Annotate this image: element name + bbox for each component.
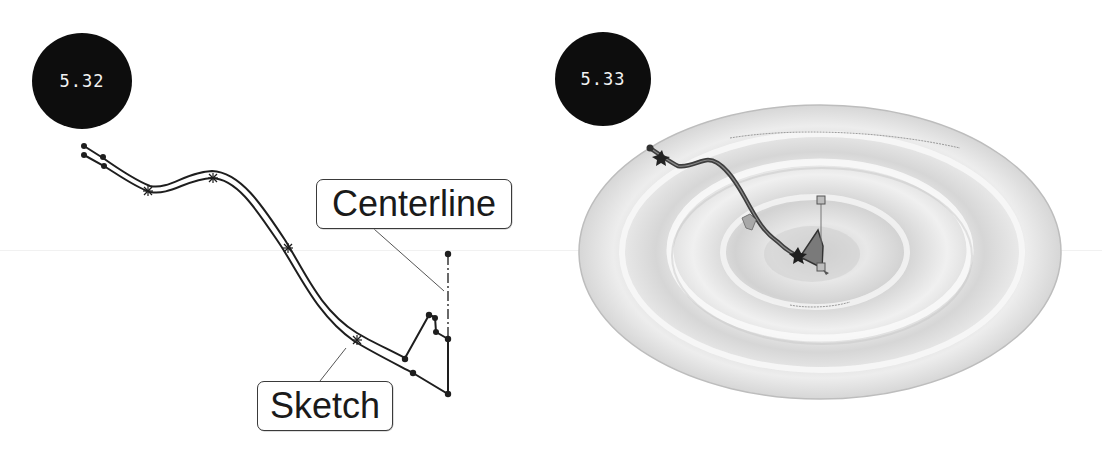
sketch-leader-line <box>320 348 346 381</box>
sketch-point[interactable] <box>402 356 408 362</box>
centerline-callout: Centerline <box>316 179 512 229</box>
figure-5-32-panel: 5.32 <box>0 0 550 456</box>
asterisk-marker[interactable] <box>283 243 293 253</box>
asterisk-marker[interactable] <box>143 186 153 196</box>
centerline-leader-line <box>374 229 444 291</box>
sketch-point-3d[interactable] <box>647 145 654 152</box>
sketch-closing-polyline[interactable] <box>405 315 448 394</box>
sketch-point[interactable] <box>433 329 439 335</box>
sketch-point[interactable] <box>101 163 107 169</box>
sketch-callout: Sketch <box>257 381 393 431</box>
sketch-point[interactable] <box>432 315 438 321</box>
sketch-point[interactable] <box>81 152 87 158</box>
sketch-point[interactable] <box>81 143 87 149</box>
sketch-spline-upper[interactable] <box>84 146 405 358</box>
axis-handle-top[interactable] <box>817 196 825 204</box>
sketch-point[interactable] <box>100 154 106 160</box>
asterisk-marker[interactable] <box>352 335 362 345</box>
sketch-point[interactable] <box>410 370 416 376</box>
centerline-callout-label: Centerline <box>332 186 496 222</box>
sketch-point[interactable] <box>426 312 432 318</box>
figure-5-33-panel: 5.33 <box>550 0 1102 456</box>
asterisk-marker[interactable] <box>208 173 218 183</box>
axis-handle-bottom[interactable] <box>817 263 825 271</box>
centerline-endpoint[interactable] <box>445 251 451 257</box>
sketch-point[interactable] <box>445 336 451 342</box>
sketch-point[interactable] <box>445 391 451 397</box>
sketch-callout-label: Sketch <box>270 388 380 424</box>
revolved-surface-render <box>550 0 1102 456</box>
